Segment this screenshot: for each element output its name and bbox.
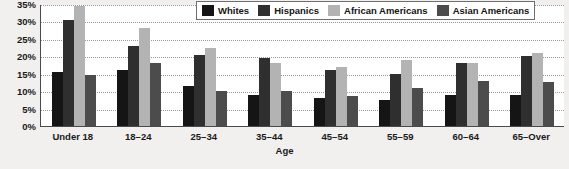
x-axis-tick-label: 65–Over (512, 131, 550, 142)
bar (347, 96, 358, 126)
legend-label: Hispanics (274, 6, 319, 16)
bar-group (51, 5, 97, 126)
bar (478, 81, 489, 126)
bar-chart-figure: 0%5%10%15%20%25%30%35% Under 1818–2425–3… (0, 0, 569, 169)
bar (379, 100, 390, 126)
bar (52, 72, 63, 126)
legend-entry: African Americans (328, 5, 428, 16)
bar (467, 63, 478, 126)
legend-label: Whites (218, 6, 249, 16)
bar (521, 56, 532, 126)
y-axis-tick-label: 20% (2, 53, 36, 63)
y-axis-tick-label: 5% (2, 105, 36, 115)
bar (117, 70, 128, 126)
x-axis-tick-label: 35–44 (256, 131, 282, 142)
legend-label: Asian Americans (453, 6, 530, 16)
bar (139, 28, 150, 126)
bar (401, 60, 412, 126)
y-axis-tick-label: 30% (2, 18, 36, 28)
bar-group (116, 5, 162, 126)
plot-area (40, 5, 564, 127)
legend-swatch-icon (328, 5, 340, 16)
legend-swatch-icon (437, 5, 449, 16)
y-axis-tick-label: 15% (2, 70, 36, 80)
bar-group (444, 5, 490, 126)
x-axis-tick-label: Under 18 (52, 131, 93, 142)
bar (63, 20, 74, 126)
bar (194, 55, 205, 126)
bar (456, 63, 467, 126)
bar (314, 98, 325, 126)
legend-entry: Hispanics (258, 5, 319, 16)
bar (336, 67, 347, 126)
bar (259, 58, 270, 126)
bar (445, 95, 456, 126)
bar-group (509, 5, 555, 126)
bar (150, 63, 161, 126)
legend-swatch-icon (258, 5, 270, 16)
legend: WhitesHispanicsAfrican AmericansAsian Am… (196, 1, 535, 20)
bar-group (247, 5, 293, 126)
bar-group (378, 5, 424, 126)
bar (216, 91, 227, 126)
legend-swatch-icon (202, 5, 214, 16)
bar-group (182, 5, 228, 126)
bar (248, 95, 259, 126)
bar (183, 86, 194, 126)
bar (532, 53, 543, 126)
bar (325, 70, 336, 126)
bar (270, 63, 281, 126)
bar (281, 91, 292, 126)
y-axis-tick-label: 35% (2, 0, 36, 10)
legend-label: African Americans (344, 6, 428, 16)
x-axis-title: Age (0, 145, 569, 156)
y-axis-tick-label: 0% (2, 122, 36, 132)
x-axis-tick-label: 45–54 (322, 131, 348, 142)
bar (543, 82, 554, 126)
x-axis-tick-label: 60–64 (453, 131, 479, 142)
bar (412, 88, 423, 126)
y-axis-tick-label: 25% (2, 35, 36, 45)
bars-layer (41, 5, 564, 126)
x-axis-tick-label: 18–24 (125, 131, 151, 142)
bar (390, 74, 401, 126)
bar (85, 75, 96, 126)
legend-entry: Whites (202, 5, 249, 16)
bar (128, 46, 139, 126)
bar (205, 48, 216, 126)
legend-entry: Asian Americans (437, 5, 530, 16)
x-axis-tick-label: 25–34 (191, 131, 217, 142)
bar (510, 95, 521, 126)
x-axis-tick-label: 55–59 (387, 131, 413, 142)
bar (74, 6, 85, 126)
bar-group (313, 5, 359, 126)
y-axis-tick-label: 10% (2, 87, 36, 97)
